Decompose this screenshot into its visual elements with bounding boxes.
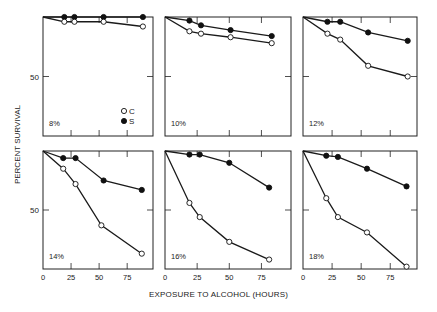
filled-circle-marker [197,152,202,157]
panel-16pct: 025507516% [163,151,291,282]
panel-8pct: 508%CS [30,14,153,136]
open-circle-marker [73,181,78,186]
series-line-C [303,151,407,267]
panel-10pct: 10% [165,17,291,136]
x-tick-label: 50 [95,273,103,282]
panel-label: 8% [49,119,60,128]
filled-circle-marker [73,155,78,160]
x-tick-label: 25 [67,273,75,282]
filled-circle-marker [335,154,340,159]
panel-14pct: 50025507514% [30,151,153,282]
panel-18pct: 025507518% [301,151,417,282]
filled-circle-marker [198,23,203,28]
open-circle-marker [366,63,371,68]
filled-circle-marker [338,19,343,24]
panel-label: 12% [309,119,324,128]
x-tick-label: 50 [225,273,233,282]
open-circle-marker [99,223,104,228]
legend-label: S [129,117,134,126]
open-circle-marker [72,19,77,24]
filled-circle-marker [101,178,106,183]
filled-circle-marker [364,166,369,171]
open-circle-marker [269,41,274,46]
open-circle-marker [187,29,192,34]
open-circle-marker [139,251,144,256]
x-tick-label: 75 [257,273,265,282]
filled-circle-marker [228,27,233,32]
x-tick-label: 25 [193,273,201,282]
series-line-C [165,151,269,260]
series-line-S [165,151,269,188]
panel-label: 18% [309,252,324,261]
series-line-C [165,17,272,43]
open-circle-icon [121,108,126,113]
x-tick-label: 75 [123,273,131,282]
open-circle-marker [140,24,145,29]
open-circle-marker [227,239,232,244]
filled-circle-marker [61,155,66,160]
y-tick-label: 50 [30,73,39,82]
open-circle-marker [324,196,329,201]
filled-circle-marker [404,184,409,189]
filled-circle-marker [187,152,192,157]
legend: CS [121,107,135,126]
y-tick-label: 50 [30,206,39,215]
open-circle-marker [364,230,369,235]
open-circle-marker [187,200,192,205]
filled-circle-marker [405,38,410,43]
filled-circle-marker [324,153,329,158]
filled-circle-marker [325,19,330,24]
series-line-C [303,17,408,77]
filled-circle-marker [366,30,371,35]
open-circle-marker [228,35,233,40]
series-line-C [43,151,142,254]
open-circle-marker [198,31,203,36]
legend-label: C [129,107,135,116]
filled-circle-marker [269,33,274,38]
series-line-C [43,17,143,27]
filled-circle-marker [267,185,272,190]
filled-circle-marker [140,14,145,19]
filled-circle-marker [187,18,192,23]
panel-label: 14% [49,252,64,261]
x-axis-title: EXPOSURE TO ALCOHOL (HOURS) [0,290,437,299]
x-tick-label: 0 [41,273,45,282]
open-circle-marker [61,166,66,171]
filled-circle-icon [121,118,126,123]
open-circle-marker [335,214,340,219]
open-circle-marker [325,31,330,36]
open-circle-marker [101,19,106,24]
open-circle-marker [197,214,202,219]
panel-12pct: 12% [303,17,417,136]
open-circle-marker [267,257,272,262]
panel-label: 10% [171,119,186,128]
x-tick-label: 0 [301,273,305,282]
open-circle-marker [404,264,409,269]
panel-label: 16% [171,252,186,261]
x-tick-label: 0 [163,273,167,282]
open-circle-marker [405,74,410,79]
open-circle-marker [338,37,343,42]
x-tick-label: 50 [357,273,365,282]
filled-circle-marker [139,187,144,192]
open-circle-marker [62,19,67,24]
filled-circle-marker [227,160,232,165]
survival-chart: 508%CS10%12%50025507514%025507516%025507… [0,0,437,312]
x-tick-label: 25 [328,273,336,282]
y-axis-title: PERCENT SURVIVAL [13,95,22,195]
x-tick-label: 75 [386,273,394,282]
series-line-S [303,17,408,41]
